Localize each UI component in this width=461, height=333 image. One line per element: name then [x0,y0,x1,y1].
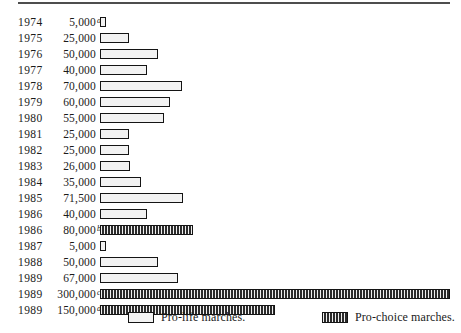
bar-prolife [100,177,141,187]
bar-row: 198680,000b [0,222,461,238]
bar-prolife [100,113,164,123]
row-value-label: 40,000 [50,62,96,78]
row-value-label: 50,000 [50,46,96,62]
bar-row: 19875,000 [0,238,461,254]
bar-row: 197525,000 [0,30,461,46]
bar-prochoice [100,225,193,235]
bar-row: 197650,000 [0,46,461,62]
bar-prolife [100,81,182,91]
bar-prolife [100,193,183,203]
row-value-label: 50,000 [50,254,96,270]
bar-prolife [100,161,130,171]
bar-row: 198326,000 [0,158,461,174]
row-value-label: 25,000 [50,126,96,142]
bar-row: 198435,000 [0,174,461,190]
legend-item-pro-life: Pro-life marches. [128,308,245,326]
row-value-label: 40,000 [50,206,96,222]
bar-prolife [100,145,129,155]
legend-label-pro-life: Pro-life marches. [161,310,245,325]
legend-item-pro-choice: Pro-choice marches. [322,308,455,326]
row-value-label: 25,000 [50,142,96,158]
row-value-label: 300,000 [50,286,96,302]
bar-prolife [100,129,129,139]
legend-swatch-pro-choice-icon [322,312,348,323]
bar-prolife [100,257,158,267]
row-value-label: 80,000 [50,222,96,238]
row-value-label: 26,000 [50,158,96,174]
bar-row: 198640,000 [0,206,461,222]
chart-legend: Pro-life marches. Pro-choice marches. [0,308,461,328]
bar-prolife [100,33,129,43]
bar-prolife [100,65,147,75]
row-value-label: 5,000 [50,238,96,254]
top-divider-rule [18,2,450,4]
bar-row: 197870,000 [0,78,461,94]
bar-row: 197960,000 [0,94,461,110]
bar-row: 198225,000 [0,142,461,158]
bar-prolife [100,49,158,59]
bar-row: 198850,000 [0,254,461,270]
bar-row: 19745,000a [0,14,461,30]
bar-row: 198967,000 [0,270,461,286]
row-value-label: 70,000 [50,78,96,94]
bar-prochoice [100,289,450,299]
bar-prolife [100,241,106,251]
legend-label-pro-choice: Pro-choice marches. [355,310,455,325]
row-value-label: 5,000 [50,14,96,30]
bar-row: 198125,000 [0,126,461,142]
row-value-label: 67,000 [50,270,96,286]
bar-prolife [100,97,170,107]
bar-prolife [100,273,178,283]
bar-rows-container: 19745,000a197525,000197650,000197740,000… [0,14,461,318]
legend-swatch-pro-life-icon [128,312,154,323]
abortion-marches-bar-chart: 19745,000a197525,000197650,000197740,000… [0,0,461,333]
row-value-label: 71,500 [50,190,96,206]
row-value-label: 60,000 [50,94,96,110]
bar-prolife [100,209,147,219]
row-value-label: 35,000 [50,174,96,190]
bar-row: 198055,000 [0,110,461,126]
bar-row: 198571,500 [0,190,461,206]
bar-row: 197740,000 [0,62,461,78]
bar-prolife [100,17,106,27]
bar-row: 1989300,000c [0,286,461,302]
row-value-label: 55,000 [50,110,96,126]
row-value-label: 25,000 [50,30,96,46]
